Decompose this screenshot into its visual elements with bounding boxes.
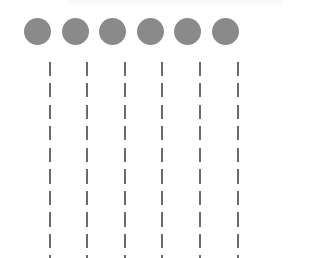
dashed-lifeline-3 — [124, 62, 126, 258]
dashed-lifeline-4 — [161, 62, 163, 258]
node-circle-6 — [212, 18, 239, 45]
node-circle-4 — [137, 18, 164, 45]
dashed-lifeline-2 — [86, 62, 88, 258]
node-circle-5 — [174, 18, 201, 45]
node-circle-2 — [62, 18, 89, 45]
dashed-lifeline-6 — [237, 62, 239, 258]
node-circle-3 — [99, 18, 126, 45]
faint-header-text — [68, 0, 283, 5]
dashed-lifeline-1 — [49, 62, 51, 258]
dashed-lifeline-5 — [199, 62, 201, 258]
node-circle-1 — [24, 18, 51, 45]
